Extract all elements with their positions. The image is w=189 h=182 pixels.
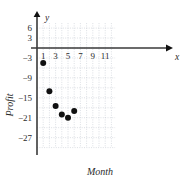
x-axis-arrow	[166, 45, 173, 52]
x-tick-label: 11	[101, 51, 110, 61]
y-tick-label: −9	[22, 73, 32, 83]
y-tick-label: 3	[28, 33, 33, 43]
y-axis-title: Profit	[4, 93, 15, 117]
scatter-plot-figure: 1357911 63−3−9−15−21−27 x y Month Profit	[0, 0, 189, 182]
data-point	[40, 60, 46, 66]
grid-lines	[37, 23, 115, 148]
data-point	[53, 103, 59, 109]
y-tick-label: −27	[18, 133, 33, 143]
x-axis-title: Month	[86, 166, 113, 177]
x-tick-label: 1	[41, 51, 46, 61]
y-tick-label: −15	[18, 93, 33, 103]
y-axis-arrow	[34, 11, 41, 17]
y-tick-label: 6	[28, 23, 33, 33]
data-point	[71, 108, 77, 114]
y-tick-label: −21	[18, 113, 32, 123]
data-point	[59, 111, 65, 117]
x-tick-label: 9	[91, 51, 96, 61]
x-tick-label: 7	[78, 51, 83, 61]
y-variable-label: y	[44, 13, 50, 23]
x-tick-label: 3	[53, 51, 58, 61]
data-point	[65, 115, 71, 121]
data-point	[46, 88, 52, 94]
x-tick-label: 5	[66, 51, 71, 61]
data-points	[40, 60, 77, 121]
y-tick-label: −3	[22, 53, 32, 63]
axes	[31, 11, 173, 155]
chart-canvas: 1357911 63−3−9−15−21−27 x y Month Profit	[0, 0, 189, 182]
x-variable-label: x	[174, 52, 180, 62]
y-tick-labels: 63−3−9−15−21−27	[18, 23, 33, 143]
